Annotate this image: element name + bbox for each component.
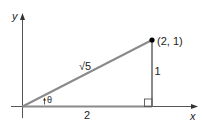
- right-angle-marker: [145, 99, 153, 107]
- hypotenuse-label: √5: [79, 60, 91, 72]
- point-marker: [149, 37, 154, 42]
- right-triangle-diagram: (2, 1) 1 2 √5 θ y x: [0, 0, 202, 125]
- point-label: (2, 1): [157, 35, 183, 47]
- angle-label: θ: [47, 95, 52, 105]
- angle-arrow-icon: [43, 98, 46, 105]
- x-axis-label: x: [189, 110, 196, 122]
- y-axis-arrow-icon: [20, 13, 25, 20]
- x-axis-arrow-icon: [191, 104, 198, 109]
- y-axis-label: y: [11, 10, 19, 22]
- hypotenuse: [23, 40, 153, 107]
- y-axis: [20, 13, 25, 118]
- adjacent-side-label: 2: [84, 109, 90, 121]
- opposite-side-label: 1: [155, 65, 161, 77]
